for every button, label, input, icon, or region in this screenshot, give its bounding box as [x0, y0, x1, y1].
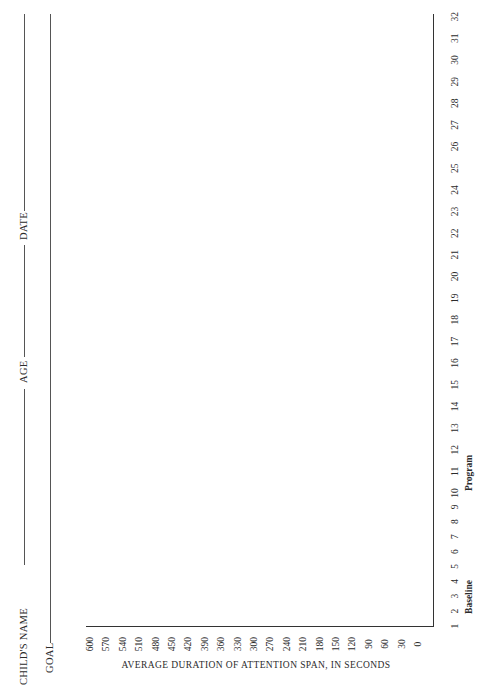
x-tick-label: 27: [450, 120, 460, 130]
x-tick-label: 7: [450, 534, 460, 539]
y-tick-label: 120: [347, 637, 357, 651]
y-tick-label: 30: [397, 639, 407, 649]
y-tick-label: 90: [364, 639, 374, 649]
x-tick-label: 10: [450, 488, 460, 498]
x-tick-label: 25: [450, 164, 460, 174]
y-tick-label: 210: [298, 637, 308, 651]
y-tick-label: 420: [183, 637, 193, 651]
x-group-program: Program: [464, 455, 474, 491]
x-axis-line: [433, 14, 434, 627]
y-tick-label: 0: [413, 642, 423, 647]
x-tick-label: 11: [450, 467, 460, 476]
x-tick-label: 12: [450, 445, 460, 455]
y-tick-label: 180: [315, 637, 325, 651]
x-tick-label: 16: [450, 358, 460, 368]
x-tick-label: 26: [450, 142, 460, 152]
y-axis-line: [86, 626, 434, 627]
y-tick-label: 60: [380, 639, 390, 649]
date-label: DATE: [18, 212, 30, 240]
x-tick-label: 9: [450, 504, 460, 509]
childs-name-label: CHILD'S NAME: [18, 608, 30, 685]
y-tick-label: 390: [200, 637, 210, 651]
goal-field[interactable]: [50, 14, 51, 643]
y-tick-label: 300: [249, 637, 259, 651]
x-tick-label: 15: [450, 380, 460, 390]
x-tick-label: 24: [450, 185, 460, 195]
x-tick-label: 8: [450, 519, 460, 524]
y-tick-label: 450: [167, 637, 177, 651]
x-tick-label: 2: [450, 609, 460, 614]
age-label: AGE: [18, 361, 30, 383]
y-tick-label: 270: [265, 637, 275, 651]
x-tick-label: 32: [450, 12, 460, 22]
age-field[interactable]: [24, 245, 25, 357]
x-tick-label: 1: [450, 624, 460, 629]
x-tick-label: 17: [450, 337, 460, 347]
y-axis-title: AVERAGE DURATION OF ATTENTION SPAN, IN S…: [122, 660, 391, 670]
x-tick-label: 20: [450, 272, 460, 282]
x-tick-label: 29: [450, 77, 460, 87]
y-tick-label: 330: [233, 637, 243, 651]
goal-label: GOAL: [44, 643, 56, 673]
x-tick-label: 28: [450, 99, 460, 109]
y-tick-label: 480: [151, 637, 161, 651]
x-tick-label: 4: [450, 579, 460, 584]
x-tick-label: 3: [450, 594, 460, 599]
x-tick-label: 30: [450, 55, 460, 65]
x-tick-label: 21: [450, 250, 460, 260]
x-tick-label: 23: [450, 207, 460, 217]
x-tick-label: 5: [450, 564, 460, 569]
date-field[interactable]: [24, 14, 25, 211]
y-tick-label: 240: [282, 637, 292, 651]
y-tick-label: 150: [331, 637, 341, 651]
y-tick-label: 540: [118, 637, 128, 651]
x-tick-label: 31: [450, 34, 460, 44]
y-tick-label: 600: [85, 637, 95, 651]
x-tick-label: 6: [450, 549, 460, 554]
y-tick-label: 510: [134, 637, 144, 651]
x-group-baseline: Baseline: [464, 580, 474, 614]
childs-name-field[interactable]: [24, 389, 25, 565]
x-tick-label: 22: [450, 228, 460, 238]
x-tick-label: 18: [450, 315, 460, 325]
x-tick-label: 14: [450, 402, 460, 412]
x-tick-label: 19: [450, 293, 460, 303]
y-tick-label: 570: [101, 637, 111, 651]
attention-span-record-form: CHILD'S NAME AGE DATE GOAL 6005705405104…: [0, 0, 480, 687]
y-tick-label: 360: [216, 637, 226, 651]
x-tick-label: 13: [450, 423, 460, 433]
